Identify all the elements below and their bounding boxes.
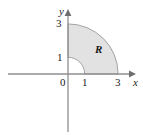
y-axis-arrowhead <box>65 9 72 16</box>
x-tick-label-1: 1 <box>82 77 88 88</box>
diagram-svg <box>0 0 143 137</box>
x-axis-label: x <box>133 77 138 88</box>
y-tick-label-3: 3 <box>56 18 62 29</box>
y-axis-label: y <box>59 6 64 17</box>
origin-tick-label: 0 <box>60 77 66 88</box>
region-shaded-annulus <box>68 24 118 74</box>
x-tick-label-3: 3 <box>115 77 121 88</box>
region-label-R: R <box>95 44 102 55</box>
y-tick-label-1: 1 <box>57 52 63 63</box>
figure-canvas: y x R 0 1 3 1 3 <box>0 0 143 137</box>
